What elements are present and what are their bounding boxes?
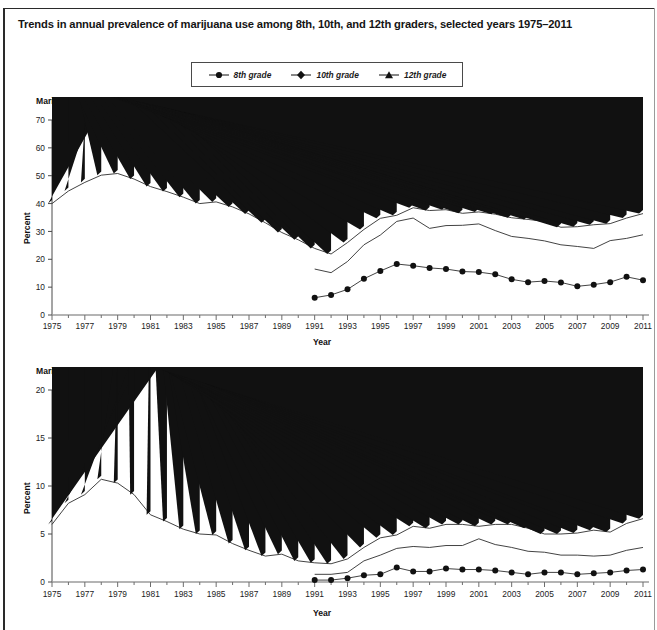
svg-text:1993: 1993	[338, 321, 357, 331]
plot-area-annual: 0102030405060701975197719791981198319851…	[0, 96, 657, 341]
y-axis-title-daily: Percent	[22, 482, 32, 514]
svg-text:1987: 1987	[240, 321, 259, 331]
x-axis-title-daily: Year	[313, 608, 331, 618]
svg-text:2011: 2011	[634, 589, 652, 599]
legend-label-12th-grade: 12th grade	[404, 70, 446, 80]
triangle-marker-icon	[378, 70, 400, 80]
svg-text:1983: 1983	[174, 589, 193, 599]
svg-text:10: 10	[36, 481, 46, 491]
svg-text:2003: 2003	[502, 321, 521, 331]
svg-text:2007: 2007	[568, 589, 587, 599]
svg-text:70: 70	[36, 115, 46, 125]
svg-text:1993: 1993	[338, 589, 357, 599]
svg-text:10: 10	[36, 282, 46, 292]
y-axis-title-annual: Percent	[22, 212, 32, 244]
svg-text:2011: 2011	[634, 321, 652, 331]
svg-text:1987: 1987	[240, 589, 259, 599]
svg-text:20: 20	[36, 385, 46, 395]
legend-item-12th-grade: 12th grade	[378, 70, 446, 80]
legend-label-8th-grade: 8th grade	[234, 70, 272, 80]
chart-panel-daily: Marijuana (daily) Percent Year 051015201…	[0, 366, 657, 628]
svg-text:1975: 1975	[43, 321, 62, 331]
svg-text:2009: 2009	[601, 321, 620, 331]
legend-item-8th-grade: 8th grade	[208, 70, 272, 80]
svg-text:2005: 2005	[535, 321, 554, 331]
svg-text:1977: 1977	[76, 321, 95, 331]
svg-text:1997: 1997	[404, 589, 423, 599]
svg-text:0: 0	[40, 577, 45, 587]
svg-text:1997: 1997	[404, 321, 423, 331]
panel-title-annual: Marijuana (annual)	[36, 96, 112, 106]
svg-text:1977: 1977	[76, 589, 95, 599]
svg-text:1995: 1995	[371, 589, 390, 599]
svg-text:2005: 2005	[535, 589, 554, 599]
svg-text:1999: 1999	[437, 321, 456, 331]
svg-text:5: 5	[40, 529, 45, 539]
chart-legend: 8th grade 10th grade 12th grade	[191, 62, 463, 87]
svg-text:1999: 1999	[437, 589, 456, 599]
x-axis-title-annual: Year	[313, 337, 331, 347]
legend-label-10th-grade: 10th grade	[316, 70, 358, 80]
page-title: Trends in annual prevalence of marijuana…	[18, 18, 638, 31]
chart-page: Trends in annual prevalence of marijuana…	[0, 0, 657, 630]
svg-text:1989: 1989	[273, 589, 292, 599]
svg-text:1991: 1991	[305, 321, 324, 331]
svg-text:0: 0	[40, 310, 45, 320]
svg-text:50: 50	[36, 171, 46, 181]
svg-text:1985: 1985	[207, 589, 226, 599]
svg-text:1981: 1981	[141, 321, 160, 331]
svg-text:2003: 2003	[502, 589, 521, 599]
svg-text:15: 15	[36, 433, 46, 443]
page-border-top	[3, 8, 655, 9]
chart-panel-annual: Marijuana (annual) Percent Year 01020304…	[0, 96, 657, 356]
svg-text:1995: 1995	[371, 321, 390, 331]
svg-text:1991: 1991	[305, 589, 324, 599]
panel-title-daily: Marijuana (daily)	[36, 366, 104, 376]
svg-text:1985: 1985	[207, 321, 226, 331]
legend-item-10th-grade: 10th grade	[290, 70, 358, 80]
svg-text:30: 30	[36, 227, 46, 237]
diamond-marker-icon	[290, 70, 312, 80]
svg-text:2007: 2007	[568, 321, 587, 331]
svg-text:1979: 1979	[108, 589, 127, 599]
circle-marker-icon	[208, 70, 230, 80]
svg-text:2009: 2009	[601, 589, 620, 599]
svg-text:1981: 1981	[141, 589, 160, 599]
svg-text:1989: 1989	[273, 321, 292, 331]
svg-text:1979: 1979	[108, 321, 127, 331]
svg-text:2001: 2001	[470, 321, 489, 331]
svg-text:20: 20	[36, 254, 46, 264]
svg-text:40: 40	[36, 199, 46, 209]
svg-text:1975: 1975	[43, 589, 62, 599]
svg-text:2001: 2001	[470, 589, 489, 599]
svg-text:60: 60	[36, 143, 46, 153]
svg-text:1983: 1983	[174, 321, 193, 331]
plot-area-daily: 0510152019751977197919811983198519871989…	[0, 366, 657, 612]
